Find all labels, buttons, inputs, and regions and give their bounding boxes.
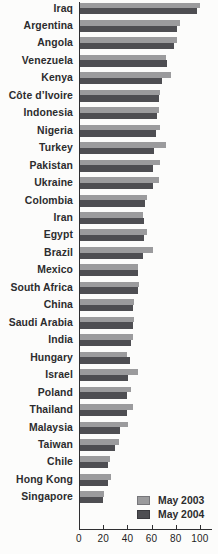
country-label: Brazil <box>0 246 73 260</box>
country-label: Nigeria <box>0 124 73 138</box>
x-axis-tick-label: 0 <box>76 533 82 544</box>
country-label: Hong Kong <box>0 473 73 487</box>
x-axis-tick-label: 60 <box>146 533 158 544</box>
bar-may-2004 <box>80 375 128 381</box>
country-label: Taiwan <box>0 438 73 452</box>
bar-may-2004 <box>80 43 174 49</box>
country-label: China <box>0 298 73 312</box>
bar-may-2004 <box>80 165 153 171</box>
x-axis-tick <box>176 525 177 529</box>
x-axis-tick-label: 40 <box>122 533 134 544</box>
country-row: Saudi Arabia <box>0 317 218 334</box>
country-row: Colombia <box>0 195 218 212</box>
bar-may-2004 <box>80 148 154 154</box>
plot-area: IraqArgentinaAngolaVenezuelaKenyaCôte d’… <box>0 0 218 554</box>
bar-may-2004 <box>80 287 138 293</box>
country-row: Turkey <box>0 142 218 159</box>
bar-may-2004 <box>80 183 153 189</box>
country-row: Egypt <box>0 229 218 246</box>
bar-may-2004 <box>80 26 177 32</box>
bar-may-2004 <box>80 340 131 346</box>
country-row: Israel <box>0 369 218 386</box>
x-axis-tick <box>152 525 153 529</box>
legend-item-may-2004: May 2004 <box>137 508 215 521</box>
country-row: Taiwan <box>0 439 218 456</box>
bar-may-2004 <box>80 130 156 136</box>
legend-swatch-may-2004 <box>137 510 150 519</box>
country-label: Poland <box>0 386 73 400</box>
bar-may-2004 <box>80 322 133 328</box>
bar-may-2004 <box>80 427 120 433</box>
x-axis-tick-label: 80 <box>170 533 182 544</box>
country-label: Hungary <box>0 351 73 365</box>
country-label: Indonesia <box>0 106 73 120</box>
country-label: Thailand <box>0 403 73 417</box>
country-label: South Africa <box>0 281 73 295</box>
country-row: Mexico <box>0 264 218 281</box>
country-label: Iran <box>0 211 73 225</box>
country-label: Argentina <box>0 19 73 33</box>
country-row: India <box>0 334 218 351</box>
country-label: Ukraine <box>0 176 73 190</box>
country-row: Argentina <box>0 20 218 37</box>
x-axis-tick <box>79 525 80 529</box>
country-row: Chile <box>0 456 218 473</box>
bar-may-2004 <box>80 200 145 206</box>
country-row: Brazil <box>0 247 218 264</box>
bar-may-2004 <box>80 60 167 66</box>
bar-may-2004 <box>80 357 130 363</box>
country-row: Hungary <box>0 352 218 369</box>
bar-may-2004 <box>80 8 197 14</box>
country-row: Iran <box>0 212 218 229</box>
legend-swatch-may-2003 <box>137 496 150 505</box>
country-label: Venezuela <box>0 54 73 68</box>
x-axis-tick <box>200 525 201 529</box>
country-label: Côte d’Ivoire <box>0 89 73 103</box>
country-row: Venezuela <box>0 55 218 72</box>
country-row: Thailand <box>0 404 218 421</box>
legend: May 2003 May 2004 <box>137 494 215 522</box>
bar-may-2004 <box>80 462 108 468</box>
country-label: Colombia <box>0 194 73 208</box>
country-label: Mexico <box>0 263 73 277</box>
country-label: Angola <box>0 36 73 50</box>
x-axis-tick-label: 20 <box>97 533 109 544</box>
country-row: Indonesia <box>0 107 218 124</box>
country-label: Kenya <box>0 71 73 85</box>
x-axis-line <box>79 529 212 530</box>
x-axis-tick <box>103 525 104 529</box>
bar-may-2004 <box>80 235 144 241</box>
country-label: India <box>0 333 73 347</box>
bar-may-2004 <box>80 410 127 416</box>
legend-item-may-2003: May 2003 <box>137 494 215 507</box>
bar-may-2004 <box>80 392 127 398</box>
bar-may-2004 <box>80 497 103 503</box>
country-label: Malaysia <box>0 421 73 435</box>
country-label: Iraq <box>0 2 73 16</box>
country-row: Angola <box>0 37 218 54</box>
bar-may-2004 <box>80 270 138 276</box>
country-row: Côte d’Ivoire <box>0 90 218 107</box>
bar-may-2004 <box>80 253 143 259</box>
country-label: Pakistan <box>0 159 73 173</box>
country-row: Iraq <box>0 3 218 20</box>
legend-label: May 2004 <box>158 508 204 521</box>
country-label: Turkey <box>0 141 73 155</box>
legend-label: May 2003 <box>158 494 204 507</box>
country-label: Chile <box>0 455 73 469</box>
country-row: Malaysia <box>0 422 218 439</box>
country-row: China <box>0 299 218 316</box>
bar-may-2004 <box>80 445 115 451</box>
country-row: Pakistan <box>0 160 218 177</box>
bar-may-2004 <box>80 305 133 311</box>
country-label: Israel <box>0 368 73 382</box>
bar-may-2004 <box>80 113 157 119</box>
bar-may-2004 <box>80 95 159 101</box>
country-row: Nigeria <box>0 125 218 142</box>
bar-may-2004 <box>80 218 144 224</box>
country-label: Saudi Arabia <box>0 316 73 330</box>
bar-may-2004 <box>80 78 162 84</box>
bar-may-2004 <box>80 480 108 486</box>
x-axis-tick <box>127 525 128 529</box>
country-row: Poland <box>0 387 218 404</box>
